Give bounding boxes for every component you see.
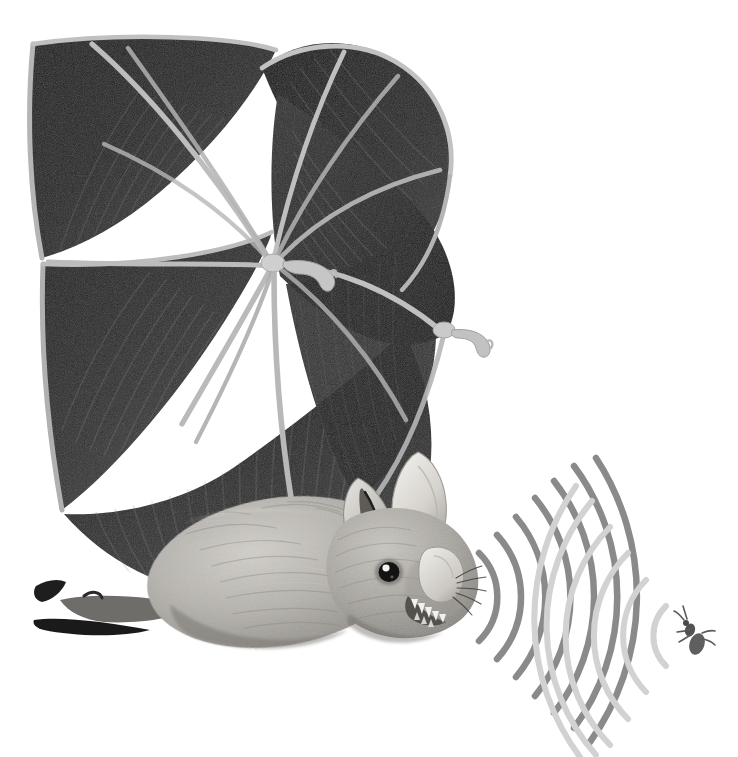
finger-bone (48, 262, 270, 266)
eye (375, 559, 403, 585)
illustration-root (0, 0, 738, 757)
bat-echolocation-illustration (0, 0, 738, 757)
